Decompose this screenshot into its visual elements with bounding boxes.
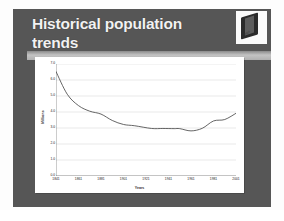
x-tick-label: 1941 — [160, 177, 178, 181]
gridlines — [56, 64, 236, 176]
scanned-page: Historical population trends logo Millio… — [0, 0, 284, 221]
x-tick-label: 1981 — [205, 177, 223, 181]
x-tick-label: 1901 — [115, 177, 133, 181]
x-tick-label: 1961 — [182, 177, 200, 181]
x-axis-ticks: 184118611881190119211941196119812001 — [56, 177, 236, 184]
axis-lines — [56, 64, 236, 176]
presentation-slide: Historical population trends logo Millio… — [13, 9, 271, 207]
page-title: Historical population trends — [32, 14, 222, 52]
chart: Millions 0.01.02.03.04.05.06.07.0 184118… — [35, 57, 244, 193]
x-tick-label: 1841 — [47, 177, 65, 181]
y-tick-label: 4.0 — [43, 110, 55, 113]
y-axis-ticks: 0.01.02.03.04.05.06.07.0 — [43, 64, 55, 176]
y-tick-label: 1.0 — [43, 158, 55, 161]
logo: logo — [236, 11, 267, 44]
page-bottom-margin — [0, 210, 284, 221]
x-tick-label: 1921 — [137, 177, 155, 181]
plot-area — [56, 64, 236, 176]
chart-container: Millions 0.01.02.03.04.05.06.07.0 184118… — [35, 57, 244, 193]
x-axis-label: Years — [35, 186, 244, 190]
y-tick-label: 2.0 — [43, 142, 55, 145]
y-tick-label: 5.0 — [43, 94, 55, 97]
x-tick-label: 1881 — [92, 177, 110, 181]
series-line-population — [56, 72, 236, 131]
x-tick-label: 1861 — [70, 177, 88, 181]
x-tick-label: 2001 — [227, 177, 245, 181]
y-tick-label: 3.0 — [43, 126, 55, 129]
y-tick-label: 6.0 — [43, 78, 55, 81]
line-chart-svg — [56, 64, 236, 176]
y-tick-label: 7.0 — [43, 62, 55, 65]
